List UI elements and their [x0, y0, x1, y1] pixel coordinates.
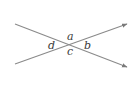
angle-label-a: a — [67, 30, 74, 43]
angle-label-b: b — [84, 39, 91, 52]
angle-label-d: d — [48, 39, 55, 52]
angle-label-c: c — [67, 45, 73, 58]
intersecting-lines-diagram: a b c d — [0, 0, 133, 93]
